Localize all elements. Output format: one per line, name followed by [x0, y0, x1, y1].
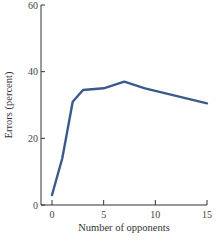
- x-tick-label: 10: [150, 209, 160, 220]
- y-axis-label: Errors (percent): [3, 71, 15, 138]
- x-tick-label: 0: [50, 209, 55, 220]
- x-tick-label: 15: [202, 209, 212, 220]
- y-tick-label: 20: [28, 133, 38, 144]
- y-tick-label: 60: [28, 0, 38, 11]
- x-tick-label: 5: [101, 209, 106, 220]
- y-axis-ticks: 0204060: [28, 0, 45, 211]
- y-tick-label: 0: [33, 200, 38, 211]
- axes: [41, 5, 207, 205]
- y-tick-label: 40: [28, 66, 38, 77]
- x-axis-label: Number of opponents: [78, 222, 170, 233]
- errors-series-line: [52, 82, 207, 195]
- x-axis-ticks: 051015: [50, 200, 213, 220]
- line-chart: 0204060 051015 Number of opponents Error…: [0, 0, 224, 247]
